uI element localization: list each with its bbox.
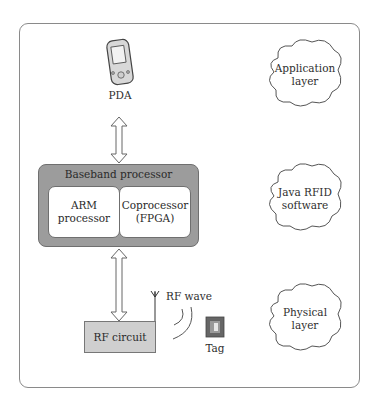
rf-wave-label: RF wave [164,290,214,303]
cloud-text-line1: Java RFID [270,186,340,199]
cloud-physical-layer: Physical layer [270,306,340,332]
arm-processor-box: ARM processor [48,186,120,238]
cloud-text-line1: Physical [270,306,340,319]
bidirectional-arrow-baseband-rf [111,249,127,321]
bidirectional-arrow-pda-baseband [111,117,127,163]
pda-label: PDA [95,89,145,102]
rf-wave-icon [173,307,192,339]
rf-circuit-label: RF circuit [93,331,146,343]
tag-label: Tag [200,342,230,355]
pda-device-icon [106,39,134,86]
cloud-application-layer: Application layer [270,62,340,88]
antenna-icon [151,291,159,321]
baseband-processor-title: Baseband processor [39,168,198,180]
cloud-text-line2: layer [270,75,340,88]
coprocessor-fpga-box: Coprocessor (FPGA) [119,186,191,238]
cloud-text-line2: layer [270,319,340,332]
arm-label-line2: processor [58,212,110,225]
cloud-text-line2: software [270,199,340,212]
rfid-tag-icon [206,317,224,337]
coprocessor-label-line1: Coprocessor [122,199,189,212]
cloud-java-rfid-software: Java RFID software [270,186,340,212]
cloud-text-line1: Application [270,62,340,75]
baseband-processor-box: Baseband processor ARM processor Coproce… [38,164,199,247]
rf-circuit-box: RF circuit [84,321,156,353]
arm-label-line1: ARM [58,199,110,212]
coprocessor-label-line2: (FPGA) [122,212,189,225]
